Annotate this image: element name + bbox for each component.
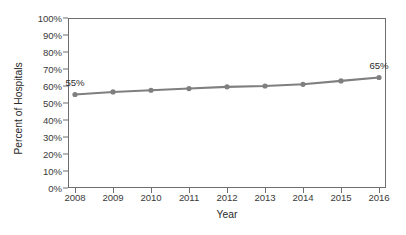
y-tick-label: 70% [43,64,62,75]
point-annotation: 55% [65,77,84,88]
y-axis-title: Percent of Hospitals [13,39,24,179]
x-tick-label: 2009 [103,192,124,203]
y-tick-label: 50% [43,98,62,109]
y-tick-label: 30% [43,132,62,143]
y-tick-label: 100% [38,13,62,24]
x-tick-label: 2014 [293,192,314,203]
y-tick-label: 20% [43,149,62,160]
y-tick-label: 40% [43,115,62,126]
y-tick-label: 90% [43,30,62,41]
y-tick-label: 60% [43,81,62,92]
x-tick-label: 2011 [179,192,199,203]
x-tick-label: 2010 [141,192,162,203]
plot-area [68,18,386,188]
x-tick-label: 2012 [217,192,238,203]
y-tick-label: 80% [43,47,62,58]
y-tick-label: 10% [43,166,62,177]
point-annotation: 65% [369,60,388,71]
x-axis-title: Year [68,209,386,220]
x-tick-label: 2016 [369,192,390,203]
x-tick-label: 2015 [331,192,352,203]
y-axis-tick-labels: 100% 90% 80% 70% 60% 50% 40% 30% 20% 10%… [0,0,62,235]
x-tick-label: 2008 [65,192,86,203]
chart-page: 100% 90% 80% 70% 60% 50% 40% 30% 20% 10%… [0,0,406,235]
y-tick-label: 0% [48,183,62,194]
x-tick-label: 2013 [255,192,276,203]
